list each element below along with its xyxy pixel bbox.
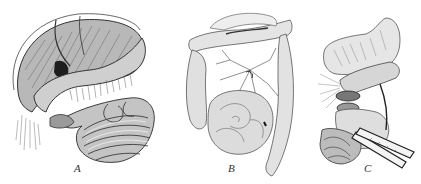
panel-c: C [310,0,421,184]
panel-c-label: C [364,162,371,174]
panel-b: B [180,0,300,184]
panel-a-illustration [0,0,160,184]
panel-b-label: B [228,162,235,174]
panel-c-illustration [310,0,421,184]
panel-b-illustration [180,0,300,184]
panel-a: A [0,0,160,184]
panel-a-label: A [74,162,81,174]
